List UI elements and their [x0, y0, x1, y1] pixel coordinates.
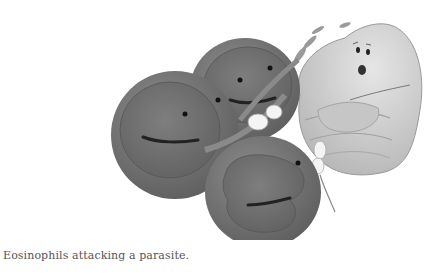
figure-caption: Eosinophils attacking a parasite. [3, 249, 189, 262]
glove-top [266, 105, 282, 119]
glove-bottom [314, 141, 326, 159]
parasite-worm [292, 21, 422, 175]
eosinophils-illustration [0, 0, 445, 240]
glove-left [248, 114, 268, 130]
